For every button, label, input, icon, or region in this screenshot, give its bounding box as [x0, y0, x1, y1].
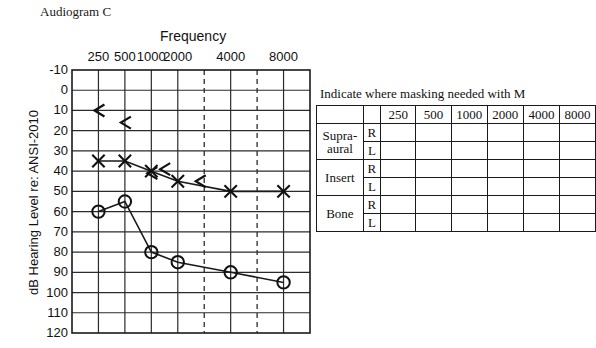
chart-marker-layer	[92, 155, 290, 289]
masking-table-cell[interactable]	[523, 214, 559, 232]
masking-table-cell[interactable]	[381, 178, 416, 196]
x-tick-label: 2000	[155, 49, 201, 64]
y-tick-label: 50	[34, 183, 68, 198]
masking-table-cell[interactable]	[451, 214, 487, 232]
chart-masking-arrows	[94, 104, 205, 187]
masking-table-category-line2: aural	[317, 142, 363, 155]
masking-table-cell[interactable]	[451, 142, 487, 160]
masking-table-cell[interactable]	[559, 124, 595, 142]
y-tick-label: 110	[34, 305, 68, 320]
masking-table-ear-header	[363, 106, 380, 124]
masking-table-container: Indicate where masking needed with M 250…	[316, 86, 596, 232]
masking-table-cell[interactable]	[487, 160, 523, 178]
masking-table-cell[interactable]	[559, 160, 595, 178]
masking-table-cell[interactable]	[416, 196, 451, 214]
marker-masking-arrow	[121, 117, 131, 129]
masking-table-cell[interactable]	[487, 196, 523, 214]
masking-table-cell[interactable]	[487, 214, 523, 232]
masking-table: 2505001000200040008000 Supra-auralRLInse…	[316, 105, 596, 232]
y-tick-label: 30	[34, 143, 68, 158]
masking-table-cell[interactable]	[523, 124, 559, 142]
masking-table-cell[interactable]	[559, 178, 595, 196]
masking-table-col-header: 250	[381, 106, 416, 124]
masking-table-cell[interactable]	[416, 124, 451, 142]
masking-table-cell[interactable]	[451, 160, 487, 178]
masking-table-cell[interactable]	[451, 178, 487, 196]
masking-table-row: Supra-auralR	[317, 124, 596, 142]
masking-table-cell[interactable]	[559, 214, 595, 232]
masking-table-row: InsertR	[317, 160, 596, 178]
masking-table-ear: L	[363, 142, 380, 160]
masking-table-cell[interactable]	[523, 160, 559, 178]
marker-masking-arrow	[160, 163, 170, 175]
masking-table-col-header: 8000	[559, 106, 595, 124]
y-tick-label: 120	[34, 325, 68, 340]
masking-table-cell[interactable]	[523, 142, 559, 160]
y-tick-label: 60	[34, 204, 68, 219]
masking-table-ear: R	[363, 124, 380, 142]
masking-table-category-line1: Supra-	[317, 129, 363, 142]
x-tick-label: 4000	[208, 49, 254, 64]
series-line-right-air	[98, 202, 283, 283]
masking-table-cell[interactable]	[381, 124, 416, 142]
chart-series-layer	[98, 161, 283, 282]
y-tick-label: 10	[34, 102, 68, 117]
masking-table-cell[interactable]	[416, 160, 451, 178]
masking-table-cell[interactable]	[487, 124, 523, 142]
masking-table-caption: Indicate where masking needed with M	[320, 86, 596, 102]
series-line-left-air	[98, 161, 283, 191]
audiogram-chart: Frequency dB Hearing Level re: ANSI-2010…	[0, 0, 330, 348]
masking-table-head: 2505001000200040008000	[317, 106, 596, 124]
masking-table-cell[interactable]	[381, 214, 416, 232]
masking-table-col-header: 2000	[487, 106, 523, 124]
masking-table-ear: R	[363, 160, 380, 178]
masking-table-cell[interactable]	[487, 142, 523, 160]
masking-table-cell[interactable]	[381, 160, 416, 178]
plot-frame	[72, 70, 310, 333]
y-tick-label: 90	[34, 264, 68, 279]
masking-table-col-header: 4000	[523, 106, 559, 124]
y-tick-label: -10	[34, 62, 68, 77]
masking-table-cell[interactable]	[559, 196, 595, 214]
masking-table-col-header: 500	[416, 106, 451, 124]
masking-table-cell[interactable]	[451, 124, 487, 142]
y-tick-label: 100	[34, 285, 68, 300]
masking-table-cell[interactable]	[381, 196, 416, 214]
masking-table-cell[interactable]	[451, 196, 487, 214]
masking-table-cell[interactable]	[523, 196, 559, 214]
masking-table-col-header: 1000	[451, 106, 487, 124]
masking-table-cell[interactable]	[559, 142, 595, 160]
masking-table-corner	[317, 106, 364, 124]
masking-table-category: Bone	[317, 196, 364, 232]
y-tick-label: 80	[34, 244, 68, 259]
masking-table-row: BoneR	[317, 196, 596, 214]
x-tick-label: 8000	[261, 49, 307, 64]
masking-table-header-row: 2505001000200040008000	[317, 106, 596, 124]
masking-table-cell[interactable]	[416, 214, 451, 232]
y-tick-label: 40	[34, 163, 68, 178]
masking-table-ear: L	[363, 214, 380, 232]
y-tick-label: 0	[34, 82, 68, 97]
masking-table-category: Supra-aural	[317, 124, 364, 160]
masking-table-ear: L	[363, 178, 380, 196]
audiogram-page: Audiogram C Frequency dB Hearing Level r…	[0, 0, 596, 348]
y-tick-label: 70	[34, 224, 68, 239]
masking-table-cell[interactable]	[487, 178, 523, 196]
masking-table-category: Insert	[317, 160, 364, 196]
y-tick-label: 20	[34, 123, 68, 138]
masking-table-ear: R	[363, 196, 380, 214]
masking-table-cell[interactable]	[416, 178, 451, 196]
masking-table-body: Supra-auralRLInsertRLBoneRL	[317, 124, 596, 232]
masking-table-cell[interactable]	[416, 142, 451, 160]
masking-table-cell[interactable]	[523, 178, 559, 196]
masking-table-cell[interactable]	[381, 142, 416, 160]
chart-gridlines	[72, 70, 310, 333]
